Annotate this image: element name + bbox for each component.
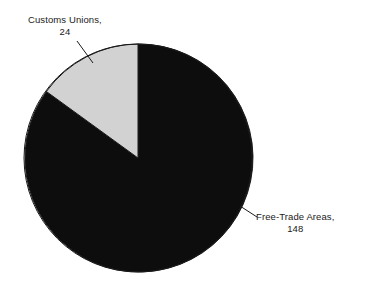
pie-chart: Customs Unions, 24 Free-Trade Areas, 148 xyxy=(0,0,378,292)
pie-label-free-trade-areas-name: Free-Trade Areas, xyxy=(256,211,334,223)
pie-label-free-trade-areas: Free-Trade Areas, 148 xyxy=(256,211,334,235)
pie-label-customs-unions: Customs Unions, 24 xyxy=(28,14,102,38)
pie-label-customs-unions-name: Customs Unions, xyxy=(28,14,102,26)
leader-line-free-trade-areas xyxy=(240,206,257,217)
pie-label-free-trade-areas-value: 148 xyxy=(256,223,334,235)
pie-label-customs-unions-value: 24 xyxy=(28,26,102,38)
pie-chart-canvas xyxy=(0,0,378,292)
